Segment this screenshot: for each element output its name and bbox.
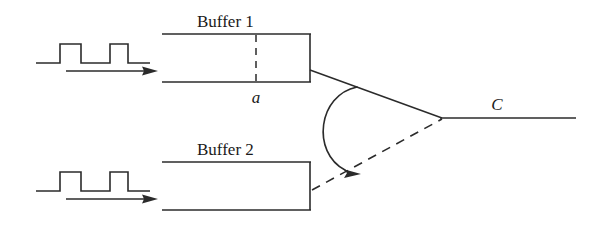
branch-top-solid	[310, 70, 442, 118]
pulse-train-top-waveform	[36, 44, 150, 63]
output-c-label: C	[491, 95, 503, 114]
input-signal-top	[36, 44, 158, 76]
curved-arrow	[323, 87, 361, 178]
buffer1-label: Buffer 1	[197, 12, 254, 31]
curved-arrow-head	[343, 169, 361, 178]
buffer2-shape	[162, 162, 311, 210]
buffer2-label: Buffer 2	[197, 140, 254, 159]
diagram-canvas: Buffer 1 a Buffer 2 C	[0, 0, 592, 231]
marker-a-label: a	[252, 88, 261, 107]
input-signal-bottom	[36, 172, 158, 204]
curved-arrow-path	[323, 87, 357, 170]
pulse-train-bottom-waveform	[36, 172, 150, 191]
pulse-train-top-arrowhead	[142, 67, 158, 76]
branch-bottom-dashed	[312, 119, 442, 190]
buffer1-shape	[162, 34, 311, 82]
pulse-train-bottom-arrowhead	[142, 195, 158, 204]
